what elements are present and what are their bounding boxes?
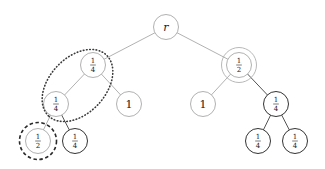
node-numerator: 1	[73, 133, 77, 141]
edges-layer	[38, 27, 295, 141]
node-numerator: 1	[293, 133, 297, 141]
node-label: 1	[200, 98, 207, 111]
node-label: r	[163, 21, 169, 34]
tree-node-n_llr: 14	[63, 129, 88, 154]
node-numerator: 1	[54, 96, 58, 104]
tree-node-n_rrr: 14	[283, 129, 308, 154]
node-denominator: 4	[73, 142, 78, 150]
tree-diagram: r141214111412141414	[0, 0, 325, 169]
tree-node-n_lr: 1	[117, 92, 142, 117]
node-denominator: 4	[256, 142, 261, 150]
node-denominator: 4	[91, 66, 96, 74]
node-denominator: 2	[237, 66, 241, 74]
node-numerator: 1	[256, 133, 260, 141]
node-numerator: 1	[237, 57, 241, 65]
node-numerator: 1	[36, 133, 40, 141]
tree-node-n_r: 12	[227, 53, 252, 78]
tree-node-root: r	[154, 15, 179, 40]
node-numerator: 1	[91, 57, 95, 65]
nodes-layer: r141214111412141414	[26, 15, 308, 154]
tree-node-n_ll: 14	[44, 92, 69, 117]
node-denominator: 4	[274, 105, 279, 113]
node-numerator: 1	[274, 96, 278, 104]
node-denominator: 4	[54, 105, 59, 113]
tree-node-n_rl: 1	[191, 92, 216, 117]
tree-node-n_rrl: 14	[246, 129, 271, 154]
tree-node-n_lll: 12	[26, 129, 51, 154]
tree-node-n_l: 14	[81, 53, 106, 78]
node-label: 1	[126, 98, 133, 111]
tree-node-n_rr: 14	[264, 92, 289, 117]
node-denominator: 2	[36, 142, 40, 150]
node-denominator: 4	[293, 142, 298, 150]
